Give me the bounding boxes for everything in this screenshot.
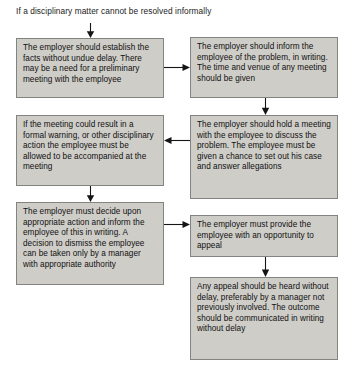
node-accompanied-at-meeting: If the meeting could result in a formal …: [16, 115, 164, 186]
node-appeal-heard-text: Any appeal should be heard without delay…: [197, 282, 331, 335]
node-inform-employee: The employer should inform the employee …: [190, 37, 338, 98]
node-hold-meeting: The employer should hold a meeting with …: [190, 115, 338, 199]
node-appeal-heard: Any appeal should be heard without delay…: [190, 277, 338, 360]
arrow-opportunity-to-appeal-to-appeal-heard: [261, 257, 270, 277]
arrow-establish-facts-to-inform-employee: [164, 63, 190, 72]
node-opportunity-to-appeal: The employer must provide the employee w…: [190, 215, 338, 257]
node-opportunity-to-appeal-text: The employer must provide the employee w…: [197, 220, 331, 252]
arrow-hold-meeting-to-accompanied-at-meeting: [164, 136, 190, 145]
arrow-inform-employee-to-hold-meeting: [261, 98, 270, 115]
disciplinary-flowchart: If a disciplinary matter cannot be resol…: [0, 0, 354, 383]
node-accompanied-at-meeting-text: If the meeting could result in a formal …: [23, 120, 157, 173]
node-decide-action-text: The employer must decide upon appropriat…: [23, 207, 157, 271]
flowchart-heading: If a disciplinary matter cannot be resol…: [16, 6, 211, 17]
arrow-accompanied-at-meeting-to-decide-action: [86, 186, 95, 202]
node-establish-facts-text: The employer should establish the facts …: [23, 43, 157, 85]
arrow-decide-action-to-opportunity-to-appeal: [164, 220, 190, 229]
node-inform-employee-text: The employer should inform the employee …: [197, 42, 331, 84]
arrow-heading-to-establish-facts: [86, 23, 95, 38]
node-hold-meeting-text: The employer should hold a meeting with …: [197, 120, 331, 173]
node-decide-action: The employer must decide upon appropriat…: [16, 202, 164, 285]
node-establish-facts: The employer should establish the facts …: [16, 38, 164, 98]
